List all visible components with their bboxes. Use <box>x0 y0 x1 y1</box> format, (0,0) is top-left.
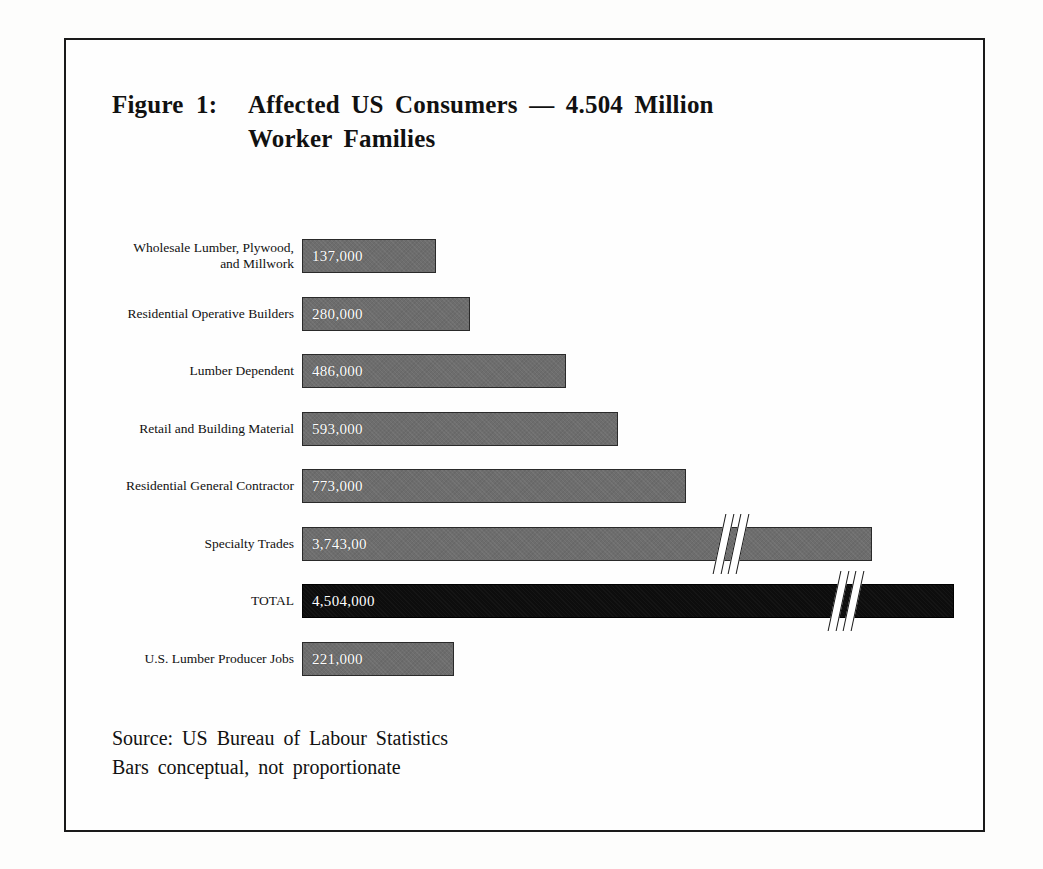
bar-row: Residential General Contractor773,000 <box>66 469 966 503</box>
bar: 773,000 <box>302 469 686 503</box>
bar: 3,743,00 <box>302 527 872 561</box>
bar-row: U.S. Lumber Producer Jobs221,000 <box>66 642 966 676</box>
bar: 593,000 <box>302 412 618 446</box>
bar-category-label-line: Specialty Trades <box>34 536 294 552</box>
bar-category-label-line: U.S. Lumber Producer Jobs <box>34 651 294 667</box>
bar-row: Retail and Building Material593,000 <box>66 412 966 446</box>
bar-value-label: 137,000 <box>312 248 363 265</box>
bar-chart: Wholesale Lumber, Plywood,and Millwork13… <box>66 40 987 834</box>
bar: 4,504,000 <box>302 584 954 618</box>
bar-category-label: Residential Operative Builders <box>34 306 294 322</box>
bar-value-label: 3,743,00 <box>312 535 367 552</box>
bar-category-label-line: Retail and Building Material <box>34 421 294 437</box>
bar-category-label: Specialty Trades <box>34 536 294 552</box>
source-line-1: Source: US Bureau of Labour Statistics <box>112 724 448 753</box>
bar-category-label: TOTAL <box>34 593 294 609</box>
bar-value-label: 280,000 <box>312 305 363 322</box>
bar-value-label: 221,000 <box>312 650 363 667</box>
bar-category-label-line: TOTAL <box>34 593 294 609</box>
bar-value-label: 773,000 <box>312 478 363 495</box>
bar-row: Specialty Trades3,743,00 <box>66 527 966 561</box>
bar: 221,000 <box>302 642 454 676</box>
bar-category-label: Residential General Contractor <box>34 478 294 494</box>
bar-category-label-line: Wholesale Lumber, Plywood, <box>34 240 294 256</box>
source-line-2: Bars conceptual, not proportionate <box>112 753 448 782</box>
figure-page: Figure 1: Affected US Consumers — 4.504 … <box>0 0 1043 869</box>
bar-value-label: 4,504,000 <box>312 593 375 610</box>
bar: 280,000 <box>302 297 470 331</box>
bar: 486,000 <box>302 354 566 388</box>
bar: 137,000 <box>302 239 436 273</box>
bar-value-label: 593,000 <box>312 420 363 437</box>
bar-category-label: Lumber Dependent <box>34 363 294 379</box>
bar-category-label: Retail and Building Material <box>34 421 294 437</box>
source-note: Source: US Bureau of Labour Statistics B… <box>112 724 448 782</box>
bar-row: TOTAL4,504,000 <box>66 584 966 618</box>
bar-value-label: 486,000 <box>312 363 363 380</box>
figure-frame: Figure 1: Affected US Consumers — 4.504 … <box>64 38 985 832</box>
bar-category-label-line: and Millwork <box>34 256 294 272</box>
bar-category-label: U.S. Lumber Producer Jobs <box>34 651 294 667</box>
bar-row: Wholesale Lumber, Plywood,and Millwork13… <box>66 239 966 273</box>
bar-category-label: Wholesale Lumber, Plywood,and Millwork <box>34 240 294 272</box>
bar-row: Residential Operative Builders280,000 <box>66 297 966 331</box>
bar-row: Lumber Dependent486,000 <box>66 354 966 388</box>
bar-category-label-line: Residential General Contractor <box>34 478 294 494</box>
bar-category-label-line: Lumber Dependent <box>34 363 294 379</box>
bar-category-label-line: Residential Operative Builders <box>34 306 294 322</box>
